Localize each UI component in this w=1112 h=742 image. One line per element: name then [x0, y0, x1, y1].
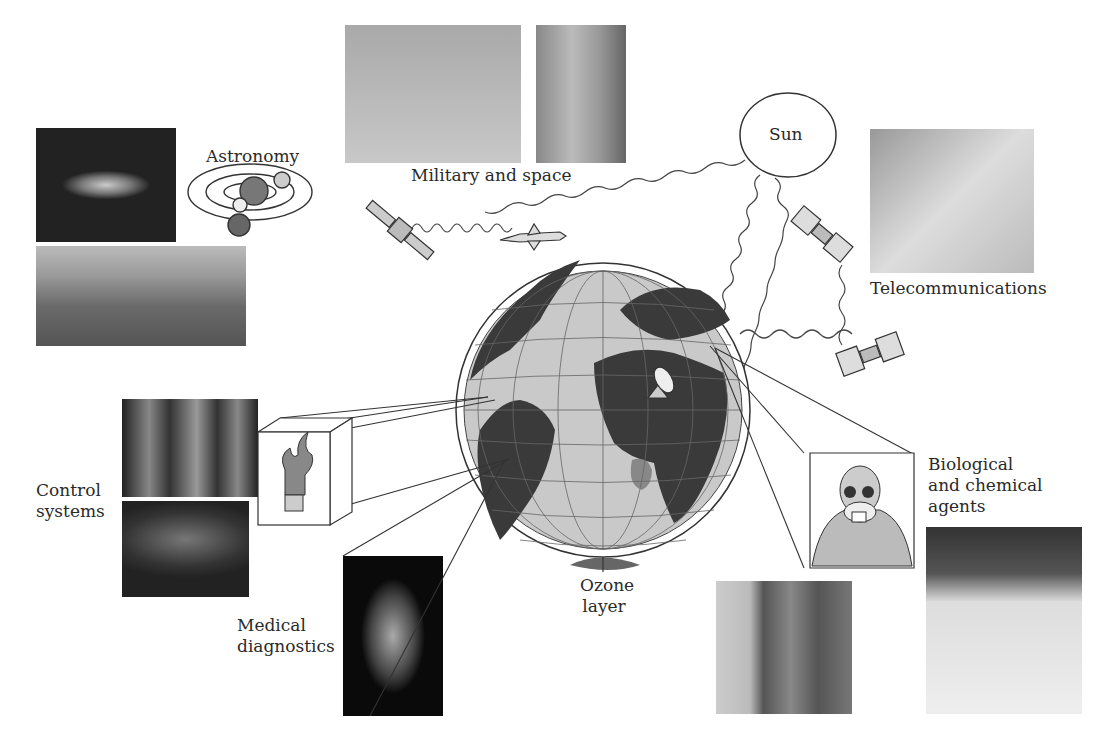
label-bio-line1: Biological [928, 454, 1043, 475]
label-control-systems: Control systems [36, 480, 105, 522]
solar-system-icon [188, 164, 312, 236]
label-bio-line2: and chemical [928, 475, 1043, 496]
label-control-line2: systems [36, 501, 105, 522]
gas-mask-icon [810, 453, 914, 568]
label-control-line1: Control [36, 480, 105, 501]
label-medical-line2: diagnostics [237, 636, 335, 657]
label-sun: Sun [769, 124, 803, 145]
label-biological-chemical-agents: Biological and chemical agents [928, 454, 1043, 517]
label-ozone-line1: Ozone [580, 575, 628, 596]
label-astronomy: Astronomy [206, 146, 299, 167]
label-military-space: Military and space [411, 165, 572, 186]
label-ozone-line2: layer [580, 596, 628, 617]
label-medical-diagnostics: Medical diagnostics [237, 615, 335, 657]
flame-icon [258, 418, 352, 525]
missile-icon [500, 224, 566, 250]
diagram-graphics [0, 0, 1112, 742]
label-medical-line1: Medical [237, 615, 335, 636]
label-bio-line3: agents [928, 496, 1043, 517]
globe-icon [456, 260, 750, 572]
label-ozone-layer: Ozone layer [580, 575, 628, 617]
label-telecommunications: Telecommunications [870, 278, 1047, 299]
